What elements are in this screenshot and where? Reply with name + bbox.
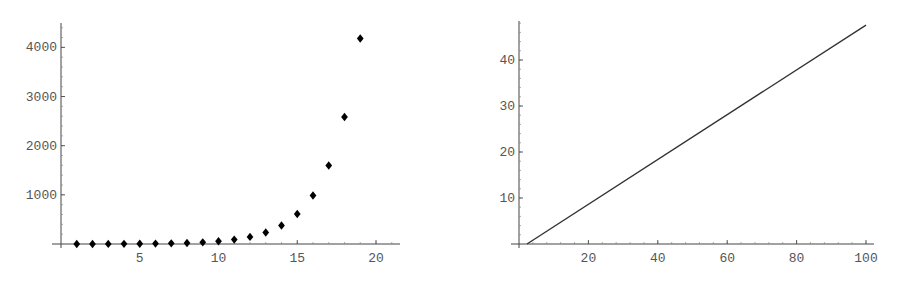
right-chart-x-tick-label: 100 — [854, 251, 877, 266]
right-chart-y-tick-label: 30 — [499, 99, 515, 114]
right-chart-y-tick-label: 10 — [499, 191, 515, 206]
right-chart-x-tick-label: 40 — [650, 251, 666, 266]
right-chart-y-tick-label: 40 — [499, 53, 515, 68]
right-chart-y-tick-label: 20 — [499, 145, 515, 160]
line-chart: 2040608010010203040 — [0, 0, 901, 282]
right-chart-x-tick-label: 20 — [581, 251, 597, 266]
right-chart-x-tick-label: 80 — [789, 251, 805, 266]
right-chart-line — [527, 25, 866, 244]
right-chart-x-tick-label: 60 — [719, 251, 735, 266]
